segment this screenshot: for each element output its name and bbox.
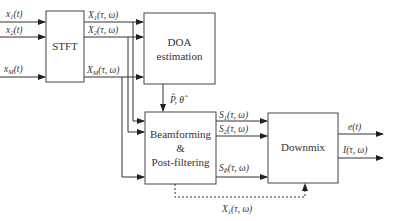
bf-label-line2: & bbox=[176, 142, 185, 154]
doa-label-line1: DOA bbox=[168, 36, 192, 48]
downmix-block: Downmix bbox=[268, 113, 338, 183]
x2-to-bf-arrow bbox=[128, 37, 144, 132]
input-label-1: x1(t) bbox=[5, 9, 22, 20]
stft-output-label-2: X2(τ, ω) bbox=[87, 25, 118, 36]
stft-output-label-1: X1(τ, ω) bbox=[87, 10, 118, 21]
block-diagram: STFT DOA estimation Beamforming & Post-f… bbox=[0, 0, 397, 221]
e-output-label: e(t) bbox=[348, 122, 361, 133]
bf-label-line1: Beamforming bbox=[150, 128, 212, 140]
bf-output-label-P: SP̂(τ, ω) bbox=[219, 163, 249, 174]
feedthrough-dashed-arrow bbox=[175, 184, 305, 197]
stft-label: STFT bbox=[52, 40, 78, 52]
doa-block: DOA estimation bbox=[144, 13, 215, 84]
doa-label-line2: estimation bbox=[157, 50, 203, 62]
stft-output-label-M: XM(τ, ω) bbox=[86, 65, 119, 76]
bf-output-label-1: S1(τ, ω) bbox=[219, 110, 248, 121]
input-label-M: xM(t) bbox=[3, 64, 23, 75]
beamforming-block: Beamforming & Post-filtering bbox=[145, 112, 216, 184]
doa-output-label: P̂, θ̂ bbox=[169, 93, 188, 105]
input-label-2: x2(t) bbox=[5, 25, 22, 36]
i-output-label: I(τ, ω) bbox=[342, 145, 367, 156]
stft-block: STFT bbox=[46, 11, 84, 82]
feedthrough-label: X1(τ, ω) bbox=[221, 204, 252, 215]
bf-output-label-2: S2(τ, ω) bbox=[219, 124, 248, 135]
downmix-label: Downmix bbox=[281, 141, 326, 153]
bf-label-line3: Post-filtering bbox=[151, 156, 210, 168]
